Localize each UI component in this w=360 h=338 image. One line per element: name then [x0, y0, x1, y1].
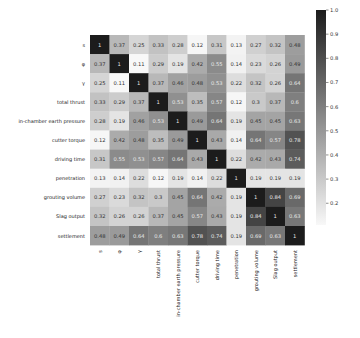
heatmap-cell: 1: [207, 150, 227, 169]
heatmap-cell: 0.37: [266, 92, 286, 111]
heatmap-cell: 0.49: [188, 111, 208, 130]
cell-value: 0.84: [269, 194, 281, 200]
cell-value: 0.46: [133, 118, 145, 124]
heatmap-cell: 0.27: [90, 188, 110, 207]
cell-value: 0.19: [289, 175, 301, 181]
y-tick-label: Slag output: [56, 213, 85, 220]
heatmap-cell: 0.63: [285, 111, 305, 130]
cell-value: 0.19: [250, 175, 262, 181]
cell-value: 0.28: [172, 42, 184, 48]
cell-value: 0.84: [250, 213, 262, 219]
cell-value: 0.64: [191, 194, 203, 200]
cell-value: 1: [274, 213, 277, 219]
cell-value: 0.63: [172, 233, 184, 239]
cell-value: 0.27: [94, 194, 106, 200]
cell-value: 0.31: [94, 156, 106, 162]
heatmap-cell: 0.63: [285, 207, 305, 226]
cell-value: 0.23: [113, 194, 125, 200]
cell-value: 0.3: [154, 194, 162, 200]
heatmap-cell: 0.45: [168, 188, 188, 207]
cell-value: 0.25: [94, 80, 106, 86]
heatmap-cell: 0.19: [168, 169, 188, 188]
heatmap-cell: 0.49: [168, 131, 188, 150]
heatmap-cell: 0.14: [227, 131, 247, 150]
heatmap-cell: 0.35: [188, 92, 208, 111]
heatmap-cell: 0.19: [227, 111, 247, 130]
heatmap-cell: 0.78: [285, 131, 305, 150]
heatmap-cell: 0.74: [285, 150, 305, 169]
cell-value: 0.55: [211, 61, 223, 67]
cell-value: 0.57: [152, 156, 164, 162]
y-tick-label: driving time: [55, 156, 85, 163]
heatmap-cell: 0.19: [227, 226, 247, 245]
colorbar-tick-label: 0.5: [330, 128, 338, 134]
cell-value: 0.53: [211, 80, 223, 86]
colorbar-tick-label: 0.7: [330, 79, 338, 85]
cell-value: 0.32: [94, 213, 106, 219]
cell-value: 0.46: [172, 80, 184, 86]
heatmap-cell: 0.19: [246, 169, 266, 188]
cell-value: 1: [215, 156, 218, 162]
y-tick-label: grouting volume: [44, 194, 85, 201]
colorbar-tick-label: 0.8: [330, 55, 338, 61]
y-tick-label: γ: [82, 80, 85, 87]
heatmap-cell: 0.64: [285, 73, 305, 92]
x-tick-label: total thrust: [155, 250, 161, 278]
cell-value: 0.69: [250, 233, 262, 239]
heatmap-cell: 0.25: [90, 73, 110, 92]
heatmap-cell: 0.22: [227, 73, 247, 92]
heatmap-cell: 0.57: [188, 207, 208, 226]
heatmap-cell: 0.42: [207, 188, 227, 207]
x-tick-label: in-chamber earth pressure: [175, 250, 182, 317]
cell-value: 1: [176, 118, 179, 124]
cell-value: 0.42: [191, 61, 203, 67]
heatmap-cell: 0.6: [149, 226, 169, 245]
heatmap-cell: 0.11: [129, 54, 149, 73]
cell-value: 0.19: [230, 194, 242, 200]
cell-value: 0.25: [133, 42, 145, 48]
cell-value: 0.45: [269, 118, 281, 124]
cell-value: 0.37: [152, 213, 164, 219]
y-axis-labels: sφγtotal thrustin-chamber earth pressure…: [18, 42, 85, 239]
colorbar-tick-label: 0.9: [330, 31, 338, 37]
heatmap-cell: 0.31: [207, 35, 227, 54]
cell-value: 0.14: [113, 175, 125, 181]
heatmap-cell: 0.69: [285, 188, 305, 207]
y-tick-label: settlement: [58, 233, 85, 239]
cell-value: 1: [293, 233, 296, 239]
cell-value: 0.33: [152, 42, 164, 48]
heatmap-cell: 0.28: [168, 35, 188, 54]
heatmap-cell: 0.37: [149, 207, 169, 226]
cell-value: 0.14: [191, 175, 203, 181]
heatmap-cell: 0.37: [90, 54, 110, 73]
cell-value: 0.19: [113, 118, 125, 124]
cell-value: 0.55: [113, 156, 125, 162]
heatmap-cell: 0.26: [266, 54, 286, 73]
heatmap-cell: 0.64: [129, 226, 149, 245]
heatmap-cell: 0.43: [207, 131, 227, 150]
heatmap-cell: 0.12: [227, 92, 247, 111]
x-tick-label: Slag output: [272, 250, 279, 279]
heatmap-cell: 0.12: [149, 169, 169, 188]
heatmap-cell: 0.29: [110, 92, 130, 111]
heatmap-cell: 0.43: [266, 150, 286, 169]
heatmap-cell: 0.43: [188, 150, 208, 169]
cell-value: 0.22: [230, 80, 242, 86]
cell-value: 0.57: [269, 137, 281, 143]
heatmap-cell: 0.14: [110, 169, 130, 188]
x-tick-label: driving time: [214, 250, 221, 280]
heatmap-cell: 0.14: [227, 54, 247, 73]
cell-value: 0.19: [172, 61, 184, 67]
colorbar-tick-label: 0.3: [330, 176, 338, 182]
cell-value: 1: [98, 42, 101, 48]
cell-value: 0.37: [133, 99, 145, 105]
cell-value: 0.35: [191, 99, 203, 105]
heatmap-cell: 0.48: [90, 226, 110, 245]
heatmap-cell: 0.26: [266, 73, 286, 92]
cell-value: 0.37: [269, 99, 281, 105]
cell-value: 0.12: [191, 42, 203, 48]
heatmap-cell: 0.46: [168, 73, 188, 92]
heatmap-cell: 0.32: [266, 35, 286, 54]
heatmap-cell: 0.29: [149, 54, 169, 73]
cell-value: 1: [137, 80, 140, 86]
